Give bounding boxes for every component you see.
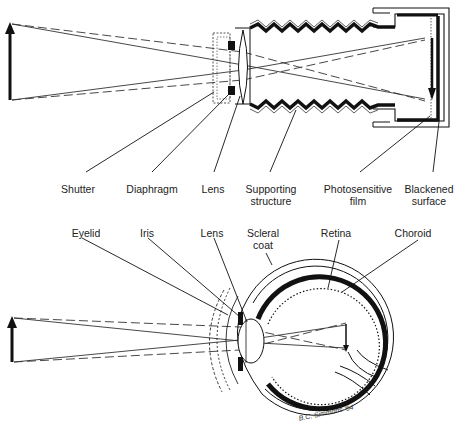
- label-shutter: Shutter: [61, 183, 95, 195]
- supporting-structure-bottom: [250, 101, 395, 108]
- label-choroid: Choroid: [395, 227, 432, 239]
- label-eyelid: Eyelid: [72, 227, 101, 239]
- label-camera-lens-text: Lens: [202, 183, 225, 195]
- label-iris-text: Iris: [140, 227, 154, 239]
- label-supporting-structure-line1: Supporting: [246, 183, 297, 195]
- label-camera-lens: Lens: [202, 183, 225, 195]
- label-blackened-surface-line1: Blackened: [404, 183, 453, 195]
- eye-light-rays: [14, 318, 346, 362]
- eye-illustration: [7, 238, 418, 415]
- label-eye-lens-text: Lens: [201, 227, 224, 239]
- label-diaphragm-text: Diaphragm: [126, 183, 177, 195]
- eyelid: [209, 290, 224, 392]
- label-eye-lens: Lens: [201, 227, 224, 239]
- eye-lens: [238, 319, 264, 363]
- label-photosensitive-film-line2: film: [324, 195, 392, 207]
- label-supporting-structure-line2: structure: [246, 195, 297, 207]
- label-retina: Retina: [321, 227, 351, 239]
- label-supporting-structure: Supporting structure: [246, 183, 297, 207]
- label-choroid-text: Choroid: [395, 227, 432, 239]
- label-blackened-surface: Blackened surface: [404, 183, 453, 207]
- shutter: [213, 33, 230, 103]
- label-diaphragm: Diaphragm: [126, 183, 177, 195]
- label-scleral-coat-line1: Scleral: [247, 227, 279, 239]
- choroid: [258, 277, 386, 409]
- camera-illustration: [5, 8, 449, 172]
- iris-top: [238, 312, 243, 325]
- label-shutter-text: Shutter: [61, 183, 95, 195]
- camera-lens: [239, 30, 248, 104]
- scleral-coat: [247, 259, 394, 415]
- iris-bottom: [238, 357, 243, 371]
- label-blackened-surface-line2: surface: [404, 195, 453, 207]
- label-eyelid-text: Eyelid: [72, 227, 101, 239]
- diaphragm-top: [228, 41, 235, 50]
- label-iris: Iris: [140, 227, 154, 239]
- camera-eye-comparison-diagram: Shutter Diaphragm Lens Supporting struct…: [0, 0, 459, 430]
- diagram-drawing: [0, 0, 459, 430]
- camera-light-rays: [12, 24, 425, 101]
- label-retina-text: Retina: [321, 227, 351, 239]
- label-photosensitive-film-line1: Photosensitive: [324, 183, 392, 195]
- diaphragm-bottom: [228, 86, 235, 95]
- label-photosensitive-film: Photosensitive film: [324, 183, 392, 207]
- label-scleral-coat-line2: coat: [247, 239, 279, 251]
- label-scleral-coat: Scleral coat: [247, 227, 279, 251]
